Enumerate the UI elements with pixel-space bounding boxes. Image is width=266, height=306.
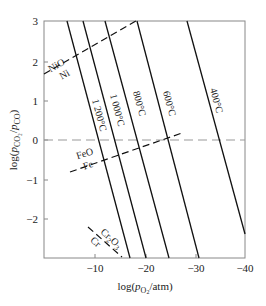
- equilibrium-lines: [44, 21, 182, 257]
- isotherm-label-1000: 1 000°C: [108, 93, 127, 128]
- y-tick-label: 2: [33, 56, 39, 68]
- isotherm-label-400: 400°C: [208, 87, 225, 115]
- isotherm-label-800: 800°C: [131, 90, 148, 118]
- y-tick-label: −1: [26, 174, 38, 186]
- y-tick-label: 1: [33, 95, 39, 107]
- y-tick-label: 0: [33, 134, 39, 146]
- isotherm-label-600: 600°C: [161, 90, 178, 118]
- isotherm-label-1200: 1 200°C: [90, 98, 109, 133]
- x-axis-label: log(pO2/atm): [117, 280, 173, 295]
- x-tick-label: −10: [86, 262, 104, 274]
- x-tick-label: −40: [236, 262, 254, 274]
- y-tick-label: −2: [26, 213, 38, 225]
- y-tick-label: 3: [33, 15, 39, 27]
- x-tick-label: −30: [187, 262, 205, 274]
- x-tick-label: −20: [137, 262, 155, 274]
- chart: 3 2 1 0 −1 −2 −10 −20 −30 −40 log(pO2/at…: [0, 0, 266, 306]
- isotherm-400: [187, 21, 245, 234]
- feo-label: FeO: [75, 145, 95, 161]
- y-axis-label: log(pCO₂/pCO): [7, 109, 22, 170]
- fe-label: Fe: [81, 158, 94, 172]
